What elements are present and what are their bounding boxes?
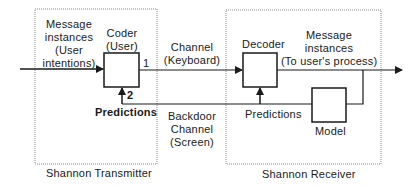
model-box xyxy=(312,88,346,122)
backdoor-channel-label: Backdoor Channel (Screen) xyxy=(160,110,224,149)
output-label-line: Message xyxy=(281,29,377,42)
coder-box xyxy=(104,53,139,87)
input-label-line: Message xyxy=(38,18,100,31)
keyboard-channel-label-line: (Keyboard) xyxy=(160,54,224,67)
input-label-line: instances xyxy=(38,31,100,44)
port-out-label: 1 xyxy=(143,57,149,70)
transmitter-title: Shannon Transmitter xyxy=(46,167,152,180)
backdoor-channel-label-line: Channel xyxy=(160,123,224,136)
model-label: Model xyxy=(315,125,346,138)
coder-label-line: (User) xyxy=(102,40,142,53)
backdoor-channel-label-line: Backdoor xyxy=(160,110,224,123)
output-label-line: (To user's process) xyxy=(281,55,377,68)
port-in-label: 2 xyxy=(127,89,133,102)
decoder-label: Decoder xyxy=(242,38,285,51)
input-label-line: intentions) xyxy=(38,57,100,70)
keyboard-channel-label-line: Channel xyxy=(160,41,224,54)
coder-label-line: Coder xyxy=(102,27,142,40)
output-label-line: instances xyxy=(281,42,377,55)
keyboard-channel-label: Channel (Keyboard) xyxy=(160,41,224,67)
coder-predictions-label: Predictions xyxy=(95,106,157,119)
output-label: Message instances (To user's process) xyxy=(281,29,377,68)
coder-label: Coder (User) xyxy=(102,27,142,53)
decoder-predictions-label: Predictions xyxy=(245,108,302,121)
receiver-title: Shannon Receiver xyxy=(262,168,356,181)
model-tap-line xyxy=(346,70,363,104)
input-label-line: (User xyxy=(38,44,100,57)
decoder-box xyxy=(243,53,277,87)
backdoor-channel-label-line: (Screen) xyxy=(160,136,224,149)
input-label: Message instances (User intentions) xyxy=(38,18,100,70)
